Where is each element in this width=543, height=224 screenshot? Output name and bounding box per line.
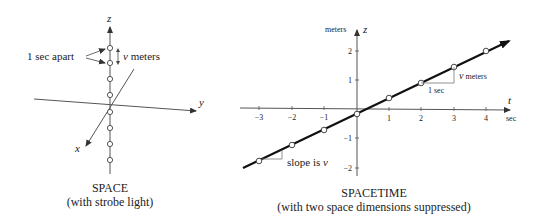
spacetime-caption-subtitle: (with two space dimensions suppressed) <box>277 200 470 214</box>
z-axis-label-spacetime: z <box>362 23 368 35</box>
spacetime-diagram: t sec meters z −3 −2 −1 1 2 3 4 <box>240 23 517 214</box>
svg-text:−2: −2 <box>288 113 297 122</box>
space-caption-title: SPACE <box>92 181 128 195</box>
worldline <box>243 41 509 168</box>
svg-text:−3: −3 <box>255 113 264 122</box>
y-axis <box>34 99 196 111</box>
interval-label: 1 sec apart <box>27 50 74 62</box>
t-axis-unit: sec <box>506 114 517 123</box>
slope-label: slope is v <box>287 156 328 168</box>
z-axis-unit: meters <box>325 25 346 34</box>
svg-text:1: 1 <box>348 76 352 85</box>
svg-text:4: 4 <box>484 114 488 123</box>
z-axis-label: z <box>106 12 112 24</box>
spacetime-caption-title: SPACETIME <box>341 186 407 200</box>
svg-text:2: 2 <box>348 47 352 56</box>
space-diagram: y x z 1 sec apart v meters SPACE (with <box>27 12 204 209</box>
t-axis-label: t <box>508 94 512 106</box>
t-axis <box>240 108 510 110</box>
pointer-arrow-lower <box>86 58 105 63</box>
space-caption-subtitle: (with strobe light) <box>67 195 154 209</box>
x-axis-label: x <box>74 142 80 154</box>
pointer-arrow-upper <box>86 49 105 56</box>
svg-text:−1: −1 <box>320 113 329 122</box>
triangle-time-label: 1 sec <box>428 86 445 95</box>
svg-text:2: 2 <box>419 114 423 123</box>
svg-text:3: 3 <box>452 114 456 123</box>
figure-canvas: y x z 1 sec apart v meters SPACE (with <box>0 0 543 224</box>
y-axis-label: y <box>198 96 204 108</box>
triangle-distance-label: v meters <box>459 70 487 81</box>
svg-text:−1: −1 <box>343 134 352 143</box>
z-tick-labels: 2 1 −1 −2 <box>343 47 352 173</box>
svg-text:1: 1 <box>387 114 391 123</box>
t-tick-labels: −3 −2 −1 1 2 3 4 <box>255 113 488 123</box>
spacing-label: v meters <box>123 50 160 62</box>
svg-text:−2: −2 <box>343 164 352 173</box>
